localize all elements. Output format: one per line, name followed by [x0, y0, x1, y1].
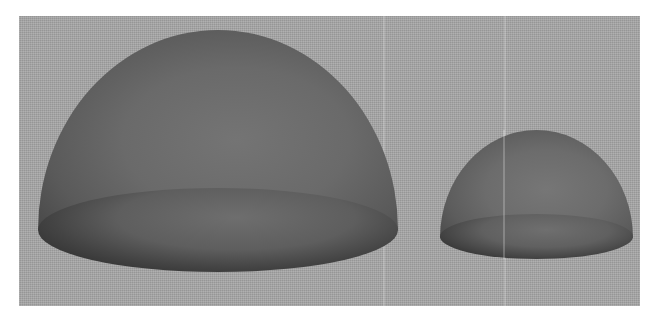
small-hemisphere	[440, 130, 633, 259]
scan-line	[503, 130, 505, 259]
large-hemisphere	[38, 30, 398, 272]
render-viewport: Two gray hemispheres (domes) on a gray t…	[19, 16, 640, 306]
